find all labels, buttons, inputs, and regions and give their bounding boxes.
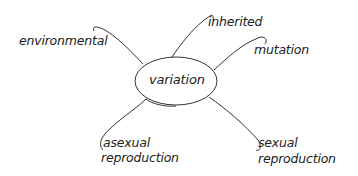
connector-sexual: [209, 97, 260, 150]
branch-label-inherited: inherited: [208, 15, 262, 29]
branch-label-mutation: mutation: [254, 43, 309, 57]
center-node-label: variation: [149, 73, 205, 87]
branch-label-sexual-line1: sexual: [258, 136, 297, 150]
branch-label-asexual-line2: reproduction: [101, 151, 179, 165]
branch-label-environmental: environmental: [19, 34, 107, 48]
branch-label-asexual-line1: asexual: [103, 136, 150, 150]
mind-map-diagram: variation environmental inherited mutati…: [0, 0, 358, 176]
branch-label-sexual-line2: reproduction: [258, 152, 336, 166]
connector-layer: [0, 0, 358, 176]
